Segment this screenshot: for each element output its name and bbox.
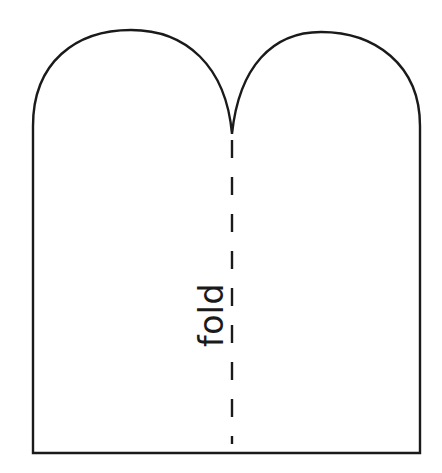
pattern-canvas: fold xyxy=(0,0,442,473)
fold-label: fold xyxy=(192,283,231,347)
fold-label-group: fold xyxy=(192,283,231,347)
pattern-diagram: fold xyxy=(0,0,442,473)
